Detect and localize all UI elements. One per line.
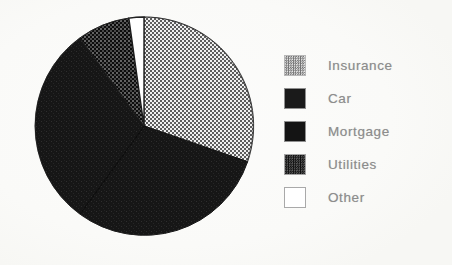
legend-item-mortgage[interactable]: Mortgage: [284, 115, 444, 148]
legend-swatch-mortgage: [284, 121, 306, 142]
legend-item-other[interactable]: Other: [284, 181, 444, 214]
legend-swatch-car: [284, 88, 306, 109]
legend-swatch-utilities: [284, 154, 306, 175]
legend-label-car: Car: [328, 92, 352, 106]
legend-label-insurance: Insurance: [328, 59, 393, 73]
pie-chart: Insurance Car Mortgage Utilities Other: [0, 0, 452, 265]
legend-label-mortgage: Mortgage: [328, 125, 390, 139]
legend-swatch-insurance: [284, 55, 306, 76]
legend-swatch-other: [284, 187, 306, 208]
legend-item-utilities[interactable]: Utilities: [284, 148, 444, 181]
legend-label-other: Other: [328, 191, 365, 205]
legend-item-car[interactable]: Car: [284, 82, 444, 115]
legend-item-insurance[interactable]: Insurance: [284, 49, 444, 82]
chart-legend: Insurance Car Mortgage Utilities Other: [284, 49, 444, 214]
legend-label-utilities: Utilities: [328, 158, 377, 172]
